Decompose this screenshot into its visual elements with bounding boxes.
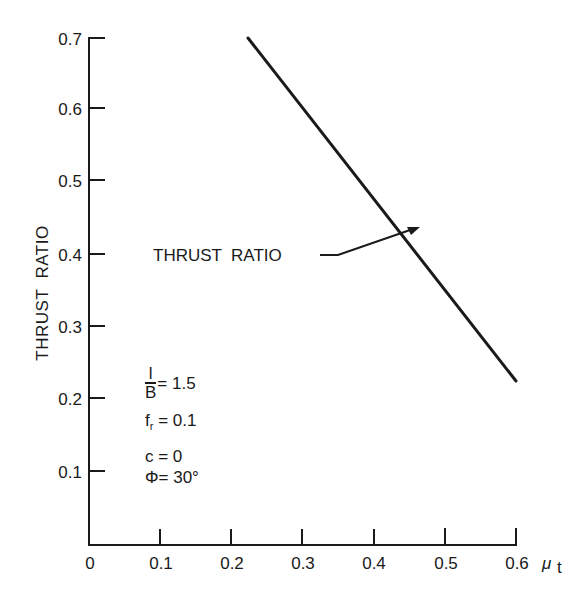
svg-text:0.1: 0.1 <box>149 554 173 573</box>
ratio-denominator: B <box>145 384 156 402</box>
phi-value: Φ= 30° <box>145 468 199 487</box>
svg-text:0.4: 0.4 <box>362 554 386 573</box>
svg-text:0.3: 0.3 <box>58 318 82 337</box>
param-phi: Φ= 30° <box>145 469 199 486</box>
svg-text:0.3: 0.3 <box>291 554 315 573</box>
y-axis-label: THRUST RATIO <box>33 225 52 360</box>
svg-text:0.4: 0.4 <box>58 246 82 265</box>
svg-text:t: t <box>557 558 562 577</box>
svg-text:0.5: 0.5 <box>434 554 458 573</box>
svg-text:0.6: 0.6 <box>58 100 82 119</box>
svg-text:0.2: 0.2 <box>58 390 82 409</box>
y-ticks <box>89 38 105 471</box>
x-tick-labels: 0 0.1 0.2 0.3 0.4 0.5 0.6 <box>85 554 529 573</box>
svg-text:μ: μ <box>541 554 552 573</box>
annotation-arrow <box>320 229 413 255</box>
ratio-fraction: l B <box>145 365 156 402</box>
param-c: c = 0 <box>145 448 182 465</box>
svg-text:0.7: 0.7 <box>58 30 82 49</box>
fr-value: = 0.1 <box>153 411 196 430</box>
svg-text:0.1: 0.1 <box>58 463 82 482</box>
param-l-over-b: l B = 1.5 <box>145 365 196 402</box>
x-axis-label: μ t <box>541 554 562 577</box>
param-fr: fr = 0.1 <box>145 412 196 432</box>
y-tick-labels: 0.7 0.6 0.5 0.4 0.3 0.2 0.1 <box>58 30 82 482</box>
svg-text:0.5: 0.5 <box>58 172 82 191</box>
svg-text:0.6: 0.6 <box>505 554 529 573</box>
thrust-ratio-annotation: THRUST RATIO <box>153 246 282 265</box>
svg-text:0: 0 <box>85 554 94 573</box>
c-value: c = 0 <box>145 447 182 466</box>
x-ticks <box>160 528 516 545</box>
ratio-numerator: l <box>145 365 156 384</box>
chart-canvas: 0.7 0.6 0.5 0.4 0.3 0.2 0.1 0 0.1 0.2 0.… <box>0 0 580 593</box>
svg-text:0.2: 0.2 <box>220 554 244 573</box>
thrust-ratio-line <box>248 38 516 381</box>
ratio-value: = 1.5 <box>157 374 195 393</box>
